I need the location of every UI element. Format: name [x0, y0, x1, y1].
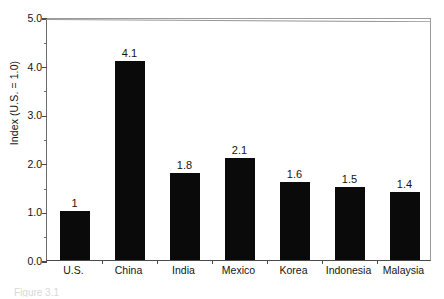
- bar-value-label: 1.4: [375, 179, 435, 190]
- y-tick-label: 5.0: [16, 13, 42, 24]
- x-tick-label: Malaysia: [364, 265, 444, 276]
- x-axis-tick-labels: U.S.ChinaIndiaMexicoKoreaIndonesiaMalays…: [46, 265, 431, 281]
- y-major-tick: [42, 164, 47, 165]
- y-minor-tick: [44, 91, 48, 92]
- bar[interactable]: [335, 187, 365, 260]
- y-major-tick: [42, 18, 47, 19]
- y-minor-tick: [44, 43, 48, 44]
- y-major-tick: [42, 261, 47, 262]
- bar-value-label: 1: [45, 198, 105, 209]
- bar-value-label: 1.5: [320, 174, 380, 185]
- bar-value-label: 4.1: [100, 48, 160, 59]
- bar-value-label: 2.1: [210, 145, 270, 156]
- y-tick-label: 1.0: [16, 207, 42, 218]
- y-tick-label: 3.0: [16, 110, 42, 121]
- y-major-tick: [42, 116, 47, 117]
- y-minor-tick: [44, 237, 48, 238]
- y-minor-tick: [44, 189, 48, 190]
- bar[interactable]: [225, 158, 255, 260]
- x-tick: [322, 260, 323, 264]
- x-tick: [102, 260, 103, 264]
- y-tick-label: 2.0: [16, 159, 42, 170]
- bar-value-label: 1.6: [265, 169, 325, 180]
- y-major-tick: [42, 67, 47, 68]
- bar[interactable]: [280, 182, 310, 260]
- y-major-tick: [42, 213, 47, 214]
- bar-value-label: 1.8: [155, 160, 215, 171]
- x-tick: [157, 260, 158, 264]
- x-tick: [212, 260, 213, 264]
- bar-chart-figure: Index (U.S. = 1.0) 0.01.02.03.04.05.0 14…: [0, 0, 444, 299]
- bar[interactable]: [170, 173, 200, 260]
- x-tick: [267, 260, 268, 264]
- x-tick: [377, 260, 378, 264]
- y-tick-label: 4.0: [16, 62, 42, 73]
- figure-caption: Figure 3.1: [14, 287, 59, 297]
- y-minor-tick: [44, 140, 48, 141]
- bar[interactable]: [60, 211, 90, 260]
- y-axis-tick-labels: 0.01.02.03.04.05.0: [8, 0, 42, 299]
- bar[interactable]: [390, 192, 420, 260]
- plot-area: 14.11.82.11.61.51.4: [46, 18, 431, 261]
- bar[interactable]: [115, 61, 145, 260]
